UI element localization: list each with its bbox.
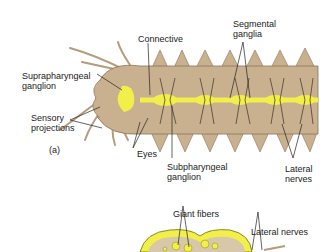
label-suprapharyngeal: Suprapharyngeal ganglion [22,71,91,91]
worm-body [60,42,318,152]
label-subpharyngeal-ganglion: Subpharyngeal ganglion [167,162,228,182]
label-panel-a: (a) [49,145,60,155]
label-eyes: Eyes [137,149,157,159]
label-segmental-ganglia: Segmental ganglia [233,19,276,39]
label-connective: Connective [138,34,183,44]
label-lateral-nerves-a: Lateral nerves [285,164,313,184]
label-lateral-nerves-b: Lateral nerves [251,227,308,237]
label-giant-fibers: Giant fibers [173,209,219,219]
label-sensory-projections: Sensory projections [31,113,75,133]
